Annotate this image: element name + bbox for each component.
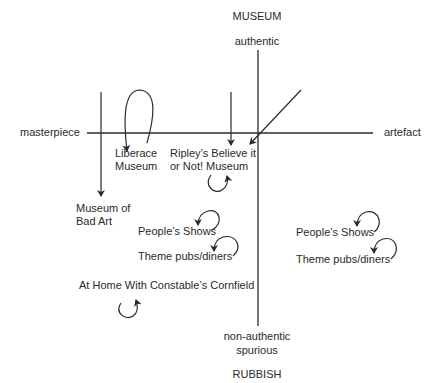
label-theme-pubs-right: Theme pubs/diners xyxy=(296,253,390,266)
label-bad-art-line2: Bad Art xyxy=(76,215,112,228)
label-bad-art-line1: Museum of xyxy=(76,202,130,215)
axis-label-artefact: artefact xyxy=(384,126,421,139)
axis-label-authentic: authentic xyxy=(235,35,280,48)
label-constable: At Home With Constable’s Cornfield xyxy=(79,279,254,292)
liberace-loop-arrow xyxy=(125,90,153,151)
constable-cycle-arrow xyxy=(119,300,138,318)
label-peoples-shows-left: People’s Shows xyxy=(138,225,216,238)
axis-label-museum: MUSEUM xyxy=(233,10,282,23)
axis-label-non-authentic: non-authentic xyxy=(224,330,291,343)
axis-label-spurious: spurious xyxy=(236,344,278,357)
axis-label-masterpiece: masterpiece xyxy=(20,126,80,139)
diagram-canvas xyxy=(0,0,447,383)
label-liberace-line2: Museum xyxy=(115,160,157,173)
label-liberace-line1: Liberace xyxy=(115,147,157,160)
label-ripley-line1: Ripley’s Believe it xyxy=(170,147,256,160)
label-ripley-line2: or Not! Museum xyxy=(170,160,248,173)
axis-label-rubbish: RUBBISH xyxy=(233,368,282,381)
label-theme-pubs-left: Theme pubs/diners xyxy=(138,250,232,263)
ripley-cycle-arrow xyxy=(208,175,227,191)
label-peoples-shows-right: People’s Shows xyxy=(296,226,374,239)
